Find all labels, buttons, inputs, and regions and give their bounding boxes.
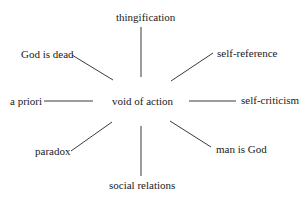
edge-man-is-god (170, 121, 211, 147)
concept-diagram: void of action thingification God is dea… (0, 0, 306, 202)
node-self-reference: self-reference (217, 47, 277, 59)
node-self-criticism: self-criticism (241, 94, 299, 106)
center-node-label: void of action (112, 95, 173, 107)
node-god-is-dead: God is dead (21, 48, 74, 60)
node-thingification: thingification (116, 11, 175, 23)
node-social-relations: social relations (109, 179, 175, 191)
edge-self-reference (171, 53, 213, 81)
edge-paradox (71, 122, 112, 151)
node-paradox: paradox (35, 145, 70, 157)
node-a-priori: a priori (10, 95, 42, 107)
node-man-is-god: man is God (216, 143, 267, 155)
edge-god-is-dead (72, 55, 113, 80)
